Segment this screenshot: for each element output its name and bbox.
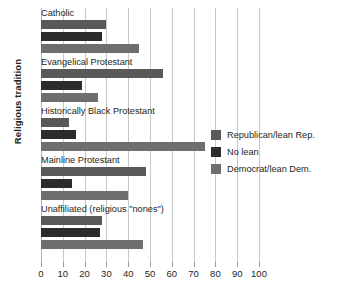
legend-label: Republican/lean Rep.	[227, 130, 315, 140]
legend-label: No lean	[227, 147, 259, 157]
x-axis-tick	[85, 262, 86, 267]
x-axis-tick-label: 70	[188, 268, 199, 279]
bar	[41, 191, 128, 200]
x-axis-tick-label: 80	[210, 268, 221, 279]
category-label: Unaffiliated (religious "nones")	[41, 204, 164, 215]
legend-item[interactable]: No lean	[211, 143, 337, 160]
bar	[41, 118, 69, 127]
bar	[41, 81, 82, 90]
category-label: Mainline Protestant	[41, 155, 120, 166]
y-axis-title: Religious tradition	[12, 37, 23, 167]
legend-swatch-icon	[211, 130, 221, 140]
bar	[41, 179, 72, 188]
bar	[41, 142, 205, 151]
bar	[41, 216, 102, 225]
x-axis-tick	[41, 262, 42, 267]
bar-group: Evangelical Protestant	[41, 57, 259, 105]
bar	[41, 130, 76, 139]
bar	[41, 167, 146, 176]
bar-group: Catholic	[41, 8, 259, 56]
x-axis-tick	[172, 262, 173, 267]
bar	[41, 228, 100, 237]
legend-label: Democrat/lean Dem.	[227, 164, 311, 174]
x-axis-tick-label: 20	[79, 268, 90, 279]
bar	[41, 32, 102, 41]
x-axis-tick	[106, 262, 107, 267]
bar	[41, 69, 163, 78]
x-axis-tick	[237, 262, 238, 267]
x-axis-tick-label: 0	[38, 268, 43, 279]
x-axis-tick	[215, 262, 216, 267]
x-axis-tick	[128, 262, 129, 267]
legend-swatch-icon	[211, 147, 221, 157]
x-axis-tick-label: 90	[232, 268, 243, 279]
bar	[41, 240, 143, 249]
x-axis-tick-label: 40	[123, 268, 134, 279]
x-axis-tick	[194, 262, 195, 267]
x-axis-tick-label: 50	[145, 268, 156, 279]
legend-swatch-icon	[211, 164, 221, 174]
bar-group: Unaffiliated (religious "nones")	[41, 204, 259, 252]
x-axis-tick-label: 30	[101, 268, 112, 279]
legend-item[interactable]: Democrat/lean Dem.	[211, 160, 337, 177]
x-axis-tick-label: 100	[251, 268, 267, 279]
chart-legend: Republican/lean Rep.No leanDemocrat/lean…	[211, 126, 337, 177]
category-label: Catholic	[41, 8, 74, 19]
x-axis-tick	[63, 262, 64, 267]
x-axis-tick	[259, 262, 260, 267]
x-axis-labels: 0102030405060708090100	[41, 268, 259, 284]
bar	[41, 44, 139, 53]
grouped-bar-chart: Religious tradition CatholicEvangelical …	[0, 0, 337, 295]
x-axis-tick	[150, 262, 151, 267]
bar	[41, 93, 98, 102]
category-label: Historically Black Protestant	[41, 106, 155, 117]
x-axis-tick-label: 60	[167, 268, 178, 279]
bar	[41, 20, 106, 29]
category-label: Evangelical Protestant	[41, 57, 132, 68]
legend-item[interactable]: Republican/lean Rep.	[211, 126, 337, 143]
x-axis-tick-label: 10	[58, 268, 69, 279]
